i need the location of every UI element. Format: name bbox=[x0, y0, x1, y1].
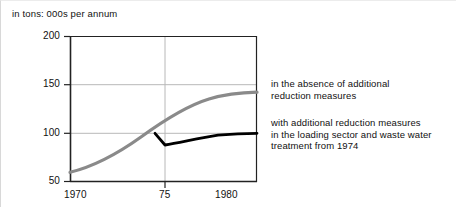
ytick-label-150: 150 bbox=[30, 78, 60, 89]
legend-label-gray-series: in the absence of additional reduction m… bbox=[271, 78, 389, 101]
series-line-gray bbox=[70, 92, 257, 172]
legend-black-line-1: with additional reduction measures bbox=[271, 117, 432, 129]
legend-gray-line-2: reduction measures bbox=[271, 90, 389, 102]
legend-black-line-2: in the loading sector and waste water bbox=[271, 129, 432, 141]
legend-black-line-3: treatment from 1974 bbox=[271, 140, 432, 152]
ytick-label-200: 200 bbox=[30, 30, 60, 41]
legend-label-black-series: with additional reduction measures in th… bbox=[271, 117, 432, 152]
xtick-label-1980: 1980 bbox=[215, 189, 238, 200]
ytick-label-50: 50 bbox=[30, 175, 60, 186]
ytick-label-100: 100 bbox=[30, 127, 60, 138]
legend-gray-line-1: in the absence of additional bbox=[271, 78, 389, 90]
series-line-black bbox=[155, 133, 257, 145]
xtick-label-1970: 1970 bbox=[64, 189, 87, 200]
xtick-label-75: 75 bbox=[159, 189, 170, 200]
chart-plot-area bbox=[0, 0, 456, 207]
